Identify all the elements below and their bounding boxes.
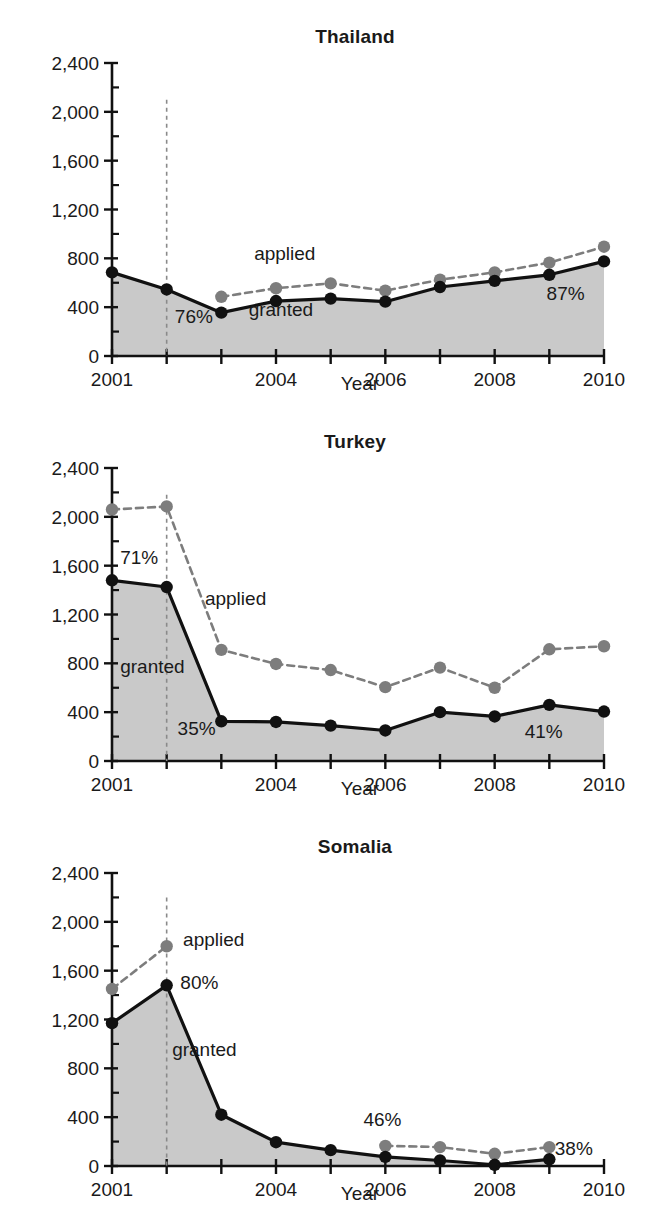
granted-data-point xyxy=(434,281,446,293)
percent-annotation: 46% xyxy=(363,1109,401,1130)
y-tick-label: 1,600 xyxy=(51,961,99,982)
granted-data-point xyxy=(598,255,610,267)
granted-data-point xyxy=(215,715,227,727)
applied-data-point xyxy=(106,983,118,995)
granted-data-point xyxy=(106,266,118,278)
percent-annotation: 38% xyxy=(555,1138,593,1159)
series-label-granted: granted xyxy=(249,299,313,320)
applied-line xyxy=(385,1146,549,1154)
applied-data-point xyxy=(488,682,500,694)
series-label-granted: granted xyxy=(120,656,184,677)
chart-panel-thailand: ThailandNumber of casesYear04008001,2001… xyxy=(0,18,655,418)
applied-data-point xyxy=(434,1141,446,1153)
applied-data-point xyxy=(379,1140,391,1152)
granted-data-point xyxy=(160,581,172,593)
series-label-granted: granted xyxy=(172,1039,236,1060)
y-tick-label: 0 xyxy=(88,1156,99,1177)
granted-data-point xyxy=(488,710,500,722)
granted-data-point xyxy=(270,1136,282,1148)
y-tick-label: 2,000 xyxy=(51,102,99,123)
chart-panel-turkey: TurkeyNumber of casesYear04008001,2001,6… xyxy=(0,423,655,823)
y-tick-label: 1,200 xyxy=(51,605,99,626)
applied-data-point xyxy=(379,284,391,296)
granted-data-point xyxy=(379,724,391,736)
applied-data-point xyxy=(324,664,336,676)
granted-data-point xyxy=(434,706,446,718)
y-tick-label: 0 xyxy=(88,346,99,367)
y-tick-label: 1,200 xyxy=(51,1010,99,1031)
y-tick-label: 2,400 xyxy=(51,863,99,884)
granted-data-point xyxy=(106,1017,118,1029)
applied-data-point xyxy=(598,640,610,652)
applied-line xyxy=(112,946,167,989)
applied-data-point xyxy=(160,500,172,512)
applied-data-point xyxy=(160,940,172,952)
y-tick-label: 400 xyxy=(67,297,99,318)
y-tick-label: 2,400 xyxy=(51,53,99,74)
granted-data-point xyxy=(324,292,336,304)
x-tick-label: 2001 xyxy=(91,369,133,390)
x-tick-label: 2010 xyxy=(583,774,625,795)
granted-data-point xyxy=(543,269,555,281)
applied-data-point xyxy=(543,256,555,268)
y-tick-label: 1,600 xyxy=(51,151,99,172)
granted-data-point xyxy=(543,1153,555,1165)
chart-panel-somalia: SomaliaNumber of casesYear04008001,2001,… xyxy=(0,828,655,1215)
applied-data-point xyxy=(270,282,282,294)
granted-data-point xyxy=(488,1159,500,1171)
applied-data-point xyxy=(324,277,336,289)
percent-annotation: 80% xyxy=(180,972,218,993)
granted-data-point xyxy=(434,1154,446,1166)
applied-data-point xyxy=(106,503,118,515)
y-tick-label: 0 xyxy=(88,751,99,772)
granted-data-point xyxy=(324,719,336,731)
granted-data-point xyxy=(215,306,227,318)
granted-data-point xyxy=(598,705,610,717)
applied-data-point xyxy=(598,241,610,253)
percent-annotation: 71% xyxy=(120,547,158,568)
granted-data-point xyxy=(324,1144,336,1156)
granted-data-point xyxy=(160,283,172,295)
granted-data-point xyxy=(379,295,391,307)
applied-data-point xyxy=(270,658,282,670)
plot-area-thailand: 04008001,2001,6002,0002,4002001200420062… xyxy=(0,18,655,418)
applied-data-point xyxy=(379,681,391,693)
y-tick-label: 1,200 xyxy=(51,200,99,221)
y-tick-label: 2,000 xyxy=(51,912,99,933)
x-tick-label: 2006 xyxy=(364,774,406,795)
granted-data-point xyxy=(379,1151,391,1163)
series-label-applied: applied xyxy=(254,243,315,264)
x-tick-label: 2001 xyxy=(91,1179,133,1200)
applied-data-point xyxy=(543,643,555,655)
plot-area-turkey: 04008001,2001,6002,0002,4002001200420062… xyxy=(0,423,655,823)
applied-data-point xyxy=(215,291,227,303)
granted-data-point xyxy=(488,275,500,287)
percent-annotation: 76% xyxy=(175,306,213,327)
applied-data-point xyxy=(488,1148,500,1160)
plot-area-somalia: 04008001,2001,6002,0002,4002001200420062… xyxy=(0,828,655,1215)
x-tick-label: 2008 xyxy=(474,1179,516,1200)
x-tick-label: 2004 xyxy=(255,774,298,795)
applied-data-point xyxy=(215,644,227,656)
y-tick-label: 800 xyxy=(67,248,99,269)
granted-data-point xyxy=(543,699,555,711)
x-tick-label: 2008 xyxy=(474,369,516,390)
applied-data-point xyxy=(434,661,446,673)
x-tick-label: 2008 xyxy=(474,774,516,795)
granted-data-point xyxy=(270,716,282,728)
granted-data-point xyxy=(160,979,172,991)
y-tick-label: 800 xyxy=(67,1058,99,1079)
x-tick-label: 2001 xyxy=(91,774,133,795)
series-label-applied: applied xyxy=(183,929,244,950)
x-tick-label: 2006 xyxy=(364,369,406,390)
x-tick-label: 2010 xyxy=(583,369,625,390)
y-tick-label: 2,400 xyxy=(51,458,99,479)
y-tick-label: 400 xyxy=(67,1107,99,1128)
applied-data-point xyxy=(543,1141,555,1153)
x-tick-label: 2004 xyxy=(255,369,298,390)
granted-data-point xyxy=(215,1109,227,1121)
x-tick-label: 2004 xyxy=(255,1179,298,1200)
x-tick-label: 2006 xyxy=(364,1179,406,1200)
percent-annotation: 35% xyxy=(178,718,216,739)
series-label-applied: applied xyxy=(205,588,266,609)
